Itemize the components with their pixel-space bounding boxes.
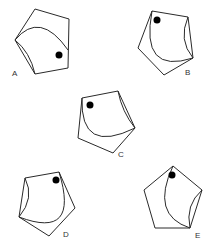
puzzle-canvas [0, 0, 209, 251]
pentagon-shape [78, 91, 135, 153]
arc-line [165, 166, 190, 228]
black-dot [87, 102, 94, 109]
black-dot [53, 177, 60, 184]
black-dot [169, 172, 176, 179]
black-dot [56, 52, 63, 59]
figure-e [144, 166, 202, 228]
option-label-d: D [63, 231, 69, 239]
option-label-b: B [185, 69, 190, 77]
option-label-c: C [118, 151, 124, 159]
figure-a [15, 9, 69, 74]
option-label-a: A [12, 70, 17, 78]
arc-line [15, 27, 68, 50]
figure-d [19, 172, 75, 236]
option-label-e: E [195, 232, 200, 240]
figure-b [138, 11, 193, 75]
black-dot [154, 17, 161, 24]
figure-c [78, 91, 135, 153]
